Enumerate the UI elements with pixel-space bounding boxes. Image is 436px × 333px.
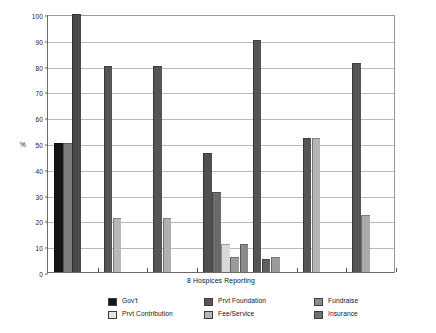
x-tick-mark bbox=[346, 268, 347, 272]
y-tick-label: 50 bbox=[36, 142, 43, 149]
y-tick-mark bbox=[45, 248, 48, 249]
y-tick-label: 10 bbox=[36, 245, 43, 252]
gridline bbox=[48, 145, 394, 146]
legend-label: Prvt Contribution bbox=[122, 311, 173, 318]
bar-chart: % 0102030405060708090100 8 Hospices Repo… bbox=[0, 0, 436, 333]
bar bbox=[212, 192, 221, 272]
legend-item[interactable]: Insurance bbox=[314, 308, 394, 321]
x-axis-title: 8 Hospices Reporting bbox=[47, 277, 395, 284]
chart-legend: Gov'tPrvt ContributionPrvt FoundationFee… bbox=[108, 295, 368, 321]
y-tick-label: 40 bbox=[36, 167, 43, 174]
gridline bbox=[48, 68, 394, 69]
gridline bbox=[48, 93, 394, 94]
plot-area: 0102030405060708090100 bbox=[47, 15, 395, 273]
bar bbox=[153, 66, 162, 272]
x-tick-mark bbox=[98, 268, 99, 272]
y-tick-label: 0 bbox=[39, 271, 43, 278]
legend-item[interactable]: Gov't bbox=[108, 295, 204, 308]
legend-item[interactable]: Fundraise bbox=[314, 295, 394, 308]
legend-swatch-icon bbox=[108, 298, 117, 306]
x-tick-mark bbox=[396, 268, 397, 272]
y-tick-mark bbox=[45, 119, 48, 120]
legend-item[interactable]: Fee/Service bbox=[204, 308, 314, 321]
gridline bbox=[48, 42, 394, 43]
y-tick-label: 90 bbox=[36, 38, 43, 45]
y-tick-label: 100 bbox=[32, 13, 43, 20]
legend-swatch-icon bbox=[314, 311, 323, 319]
y-tick-label: 60 bbox=[36, 116, 43, 123]
y-tick-label: 70 bbox=[36, 90, 43, 97]
x-tick-mark bbox=[297, 268, 298, 272]
bar bbox=[203, 153, 212, 272]
bar bbox=[63, 143, 72, 272]
bar bbox=[262, 259, 271, 272]
y-tick-mark bbox=[45, 16, 48, 17]
y-tick-label: 80 bbox=[36, 64, 43, 71]
x-tick-mark bbox=[197, 268, 198, 272]
legend-label: Prvt Foundation bbox=[218, 298, 266, 305]
legend-label: Gov't bbox=[122, 298, 138, 305]
legend-label: Insurance bbox=[328, 311, 358, 318]
bar bbox=[303, 138, 312, 272]
y-tick-mark bbox=[45, 93, 48, 94]
bar bbox=[113, 218, 122, 272]
bar bbox=[163, 218, 172, 272]
bar bbox=[271, 257, 280, 272]
bar bbox=[312, 138, 321, 272]
bar bbox=[352, 63, 361, 272]
bar bbox=[361, 215, 370, 272]
bar bbox=[72, 14, 81, 272]
legend-swatch-icon bbox=[314, 298, 323, 306]
y-tick-mark bbox=[45, 41, 48, 42]
bar bbox=[253, 40, 262, 272]
y-tick-mark bbox=[45, 145, 48, 146]
legend-item[interactable]: Prvt Foundation bbox=[204, 295, 314, 308]
y-tick-mark bbox=[45, 170, 48, 171]
gridline bbox=[48, 222, 394, 223]
legend-swatch-icon bbox=[108, 311, 117, 319]
legend-swatch-icon bbox=[204, 311, 213, 319]
y-tick-mark bbox=[45, 67, 48, 68]
legend-label: Fundraise bbox=[328, 298, 358, 305]
y-tick-label: 20 bbox=[36, 219, 43, 226]
bar bbox=[104, 66, 113, 272]
legend-swatch-icon bbox=[204, 298, 213, 306]
bar bbox=[230, 257, 239, 272]
gridline bbox=[48, 119, 394, 120]
x-tick-mark bbox=[147, 268, 148, 272]
legend-item[interactable]: Prvt Contribution bbox=[108, 308, 204, 321]
y-tick-mark bbox=[45, 274, 48, 275]
y-axis-title: % bbox=[20, 141, 26, 148]
bar bbox=[240, 244, 249, 272]
y-tick-label: 30 bbox=[36, 193, 43, 200]
legend-label: Fee/Service bbox=[218, 311, 254, 318]
gridline bbox=[48, 171, 394, 172]
bar bbox=[221, 244, 230, 272]
gridline bbox=[48, 197, 394, 198]
y-tick-mark bbox=[45, 196, 48, 197]
y-tick-mark bbox=[45, 222, 48, 223]
bar bbox=[54, 143, 63, 272]
